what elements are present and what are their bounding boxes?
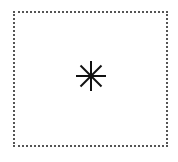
- asterisk-icon: [75, 60, 107, 92]
